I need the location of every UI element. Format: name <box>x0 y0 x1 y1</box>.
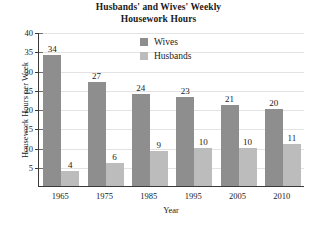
bar-group: 2011 <box>265 33 301 186</box>
y-axis-tick-label: 30 <box>25 67 34 77</box>
chart-container: Husbands' and Wives' Weekly Housework Ho… <box>0 0 311 228</box>
chart-legend: Wives Husbands <box>140 35 191 63</box>
bar-value-label: 23 <box>181 86 190 96</box>
bar-value-label: 21 <box>225 94 234 104</box>
x-axis-tick-label: 1995 <box>185 191 202 201</box>
bar-value-label: 6 <box>112 152 117 162</box>
bar-group: 276 <box>88 33 124 186</box>
y-axis-tick-label: 5 <box>29 163 33 173</box>
bar-value-label: 24 <box>136 83 145 93</box>
legend-label-wives: Wives <box>154 37 178 47</box>
bar-wives-1995: 23 <box>176 97 194 186</box>
chart-title-line-1: Husbands' and Wives' Weekly <box>46 2 271 14</box>
legend-item-husbands: Husbands <box>140 49 191 63</box>
bar-wives-2005: 21 <box>221 105 239 186</box>
x-axis-tick-label: 1965 <box>52 191 69 201</box>
y-axis-tick-label: 15 <box>25 124 34 134</box>
y-axis-tick-label: 20 <box>25 105 34 115</box>
bar-husbands-1975: 6 <box>106 163 124 186</box>
bar-value-label: 20 <box>269 98 278 108</box>
bar-wives-1965: 34 <box>43 55 61 186</box>
bar-value-label: 11 <box>287 133 296 143</box>
y-axis-tick-label: 35 <box>25 47 34 57</box>
legend-swatch-icon-husbands <box>140 52 148 60</box>
bar-husbands-2005: 10 <box>239 148 257 187</box>
bar-group: 344 <box>43 33 79 186</box>
chart-title: Husbands' and Wives' Weekly Housework Ho… <box>46 2 271 25</box>
bar-wives-2010: 20 <box>265 109 283 186</box>
bar-value-label: 10 <box>243 137 252 147</box>
bar-value-label: 10 <box>199 137 208 147</box>
x-axis-tick-label: 2005 <box>229 191 246 201</box>
legend-swatch-icon-wives <box>140 38 148 46</box>
x-axis-label: Year <box>38 205 304 215</box>
bar-value-label: 9 <box>157 140 162 150</box>
legend-label-husbands: Husbands <box>154 51 191 61</box>
bar-value-label: 4 <box>68 160 73 170</box>
y-axis-tick-label: 40 <box>25 28 34 38</box>
bar-husbands-1965: 4 <box>61 171 79 186</box>
x-axis-tick-label: 1975 <box>96 191 113 201</box>
chart-title-line-2: Housework Hours <box>46 14 271 26</box>
legend-item-wives: Wives <box>140 35 191 49</box>
bar-husbands-2010: 11 <box>283 144 301 186</box>
y-axis-tick-label: 25 <box>25 86 34 96</box>
bar-wives-1985: 24 <box>132 94 150 186</box>
bar-husbands-1995: 10 <box>194 148 212 187</box>
bar-wives-1975: 27 <box>88 82 106 186</box>
bar-value-label: 34 <box>48 44 57 54</box>
bar-value-label: 27 <box>92 71 101 81</box>
x-axis-tick-label: 1985 <box>140 191 157 201</box>
y-axis-tick-label: 10 <box>25 144 34 154</box>
bar-husbands-1985: 9 <box>150 151 168 186</box>
bar-group: 2110 <box>221 33 257 186</box>
x-axis-tick-label: 2010 <box>273 191 290 201</box>
